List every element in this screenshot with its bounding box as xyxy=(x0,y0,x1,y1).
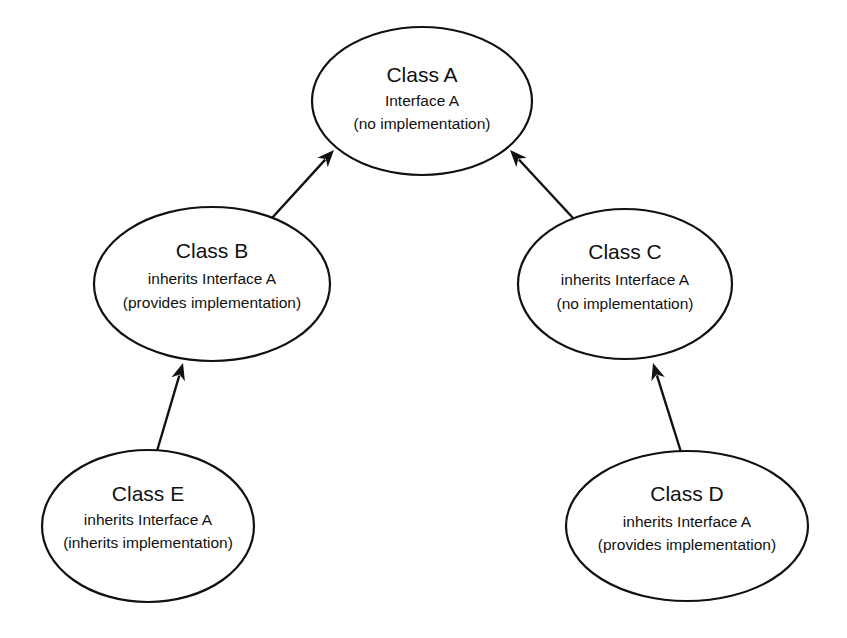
node-interface-text: inherits Interface A xyxy=(148,270,277,287)
node-class-a: Class A Interface A (no implementation) xyxy=(312,27,532,175)
node-title: Class B xyxy=(176,239,248,262)
node-implementation-text: (provides implementation) xyxy=(598,536,776,553)
edge-line-d-c xyxy=(657,375,681,452)
edge-b-to-a xyxy=(272,150,334,218)
edge-line-c-a xyxy=(519,160,573,218)
node-title: Class A xyxy=(386,63,457,86)
node-class-c: Class C inherits Interface A (no impleme… xyxy=(518,209,732,359)
node-class-b: Class B inherits Interface A (provides i… xyxy=(94,207,330,361)
node-class-e: Class E inherits Interface A (inherits i… xyxy=(42,450,254,602)
node-implementation-text: (no implementation) xyxy=(354,115,491,132)
node-interface-text: inherits Interface A xyxy=(623,513,752,530)
node-title: Class C xyxy=(588,240,662,263)
node-class-d: Class D inherits Interface A (provides i… xyxy=(566,451,808,601)
node-title: Class D xyxy=(650,482,724,505)
node-implementation-text: (inherits implementation) xyxy=(63,534,233,551)
inheritance-diagram: Class A Interface A (no implementation) … xyxy=(0,0,847,638)
edge-line-b-a xyxy=(272,160,325,218)
edge-line-e-b xyxy=(157,375,179,451)
node-interface-text: Interface A xyxy=(385,92,460,109)
node-title: Class E xyxy=(112,482,184,505)
node-implementation-text: (provides implementation) xyxy=(123,294,301,311)
edge-c-to-a xyxy=(510,150,573,218)
node-interface-text: inherits Interface A xyxy=(84,511,213,528)
edge-d-to-c xyxy=(651,363,681,452)
node-implementation-text: (no implementation) xyxy=(557,295,694,312)
node-interface-text: inherits Interface A xyxy=(561,271,690,288)
edge-e-to-b xyxy=(157,363,185,451)
